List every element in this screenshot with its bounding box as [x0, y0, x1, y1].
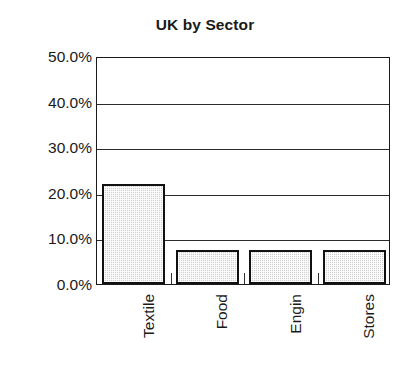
x-axis-category-label: Food [213, 294, 231, 329]
bar [176, 250, 239, 284]
x-axis-tick [171, 273, 172, 284]
y-axis-tick-label: 10.0% [14, 230, 92, 248]
y-axis-tick-label: 0.0% [14, 276, 92, 294]
x-axis-category-label: Textile [140, 294, 158, 338]
y-axis-tick-label: 40.0% [14, 94, 92, 112]
x-axis-tick [318, 273, 319, 284]
y-axis-tick-label: 50.0% [14, 48, 92, 66]
bar [249, 250, 312, 284]
y-axis-tick-labels: 0.0%10.0%20.0%30.0%40.0%50.0% [8, 0, 92, 376]
gridline [97, 149, 389, 150]
x-axis-category-label: Engin [287, 294, 305, 334]
y-axis-tick-label: 30.0% [14, 139, 92, 157]
y-axis-tick-label: 20.0% [14, 185, 92, 203]
bar [323, 250, 386, 284]
x-axis-tick [244, 273, 245, 284]
x-axis-category-label: Stores [360, 294, 378, 339]
chart-screenshot: UK by Sector 0.0%10.0%20.0%30.0%40.0%50.… [0, 0, 410, 376]
gridline [97, 104, 389, 105]
bar [102, 184, 165, 284]
plot-area [96, 57, 390, 285]
x-axis-category-labels: TextileFoodEnginStores [96, 285, 390, 376]
